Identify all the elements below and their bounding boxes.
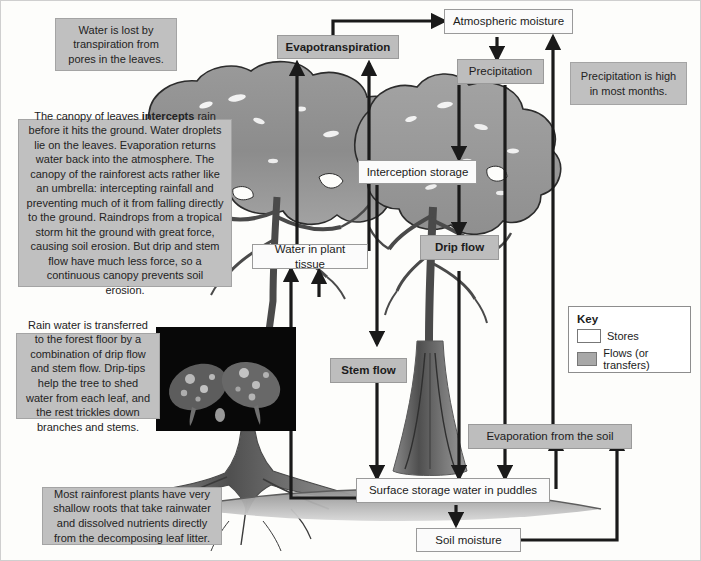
box-water-in-plant-tissue[interactable]: Water in plant tissue	[252, 244, 368, 269]
box-stem-flow[interactable]: Stem flow	[330, 358, 407, 383]
note-precipitation-high: Precipitation is high in most months.	[570, 62, 687, 105]
note-shallow-roots: Most rainforest plants have very shallow…	[42, 487, 222, 545]
box-atmospheric-moisture[interactable]: Atmospheric moisture	[444, 9, 573, 34]
diagram-canvas: Evapotranspiration Atmospheric moisture …	[0, 0, 701, 561]
box-interception-storage[interactable]: Interception storage	[358, 160, 477, 184]
note-rainwater-transfer: Rain water is transferred to the forest …	[16, 333, 160, 419]
note-canopy-intercepts: The canopy of leaves intercepts rain bef…	[18, 119, 232, 287]
leaf-droplets-photo	[156, 327, 296, 431]
note-canopy-pre: The canopy of leaves	[34, 110, 142, 122]
key-stores-label: Stores	[607, 330, 639, 342]
box-evapotranspiration[interactable]: Evapotranspiration	[277, 35, 399, 59]
key-legend: Key Stores Flows (or transfers)	[568, 306, 691, 373]
note-canopy-bold: intercepts	[142, 110, 195, 122]
box-evaporation-from-the-soil[interactable]: Evaporation from the soil	[468, 424, 632, 449]
key-title: Key	[577, 313, 682, 325]
stores-swatch-icon	[577, 329, 601, 343]
key-flows-label: Flows (or transfers)	[603, 347, 682, 371]
box-drip-flow[interactable]: Drip flow	[420, 235, 499, 260]
box-precipitation[interactable]: Precipitation	[457, 59, 544, 84]
note-transpiration: Water is lost by transpiration from pore…	[55, 18, 177, 71]
box-surface-storage[interactable]: Surface storage water in puddles	[356, 478, 550, 503]
key-row-flows: Flows (or transfers)	[577, 347, 682, 371]
key-row-stores: Stores	[577, 329, 682, 343]
flows-swatch-icon	[577, 352, 597, 366]
box-soil-moisture[interactable]: Soil moisture	[416, 528, 521, 552]
note-canopy-text: The canopy of leaves intercepts rain bef…	[26, 109, 224, 298]
note-canopy-post: rain before it hits the ground. Water dr…	[27, 110, 224, 296]
